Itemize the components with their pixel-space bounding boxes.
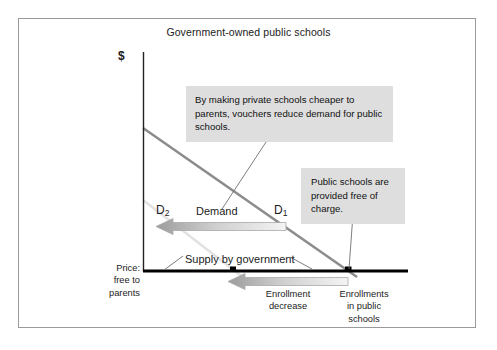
curve-label-d1-text: D <box>274 203 283 217</box>
demand-label: Demand <box>196 205 238 218</box>
enrollment-decrease-label: Enrollment decrease <box>252 288 324 313</box>
leader-line-supply-left <box>164 256 183 270</box>
callout-free-charge: Public schools are provided free of char… <box>301 168 405 224</box>
curve-label-d1-subscript: 1 <box>283 208 288 218</box>
diagram-canvas <box>0 0 497 350</box>
curve-label-d1: D1 <box>274 203 287 218</box>
price-axis-label: Price: free to parents <box>78 262 140 299</box>
equilibrium-dot-d2 <box>230 267 236 272</box>
curve-label-d2-text: D <box>156 203 165 217</box>
x-axis-caption: Enrollments in public schools <box>325 288 403 325</box>
y-axis-label: $ <box>118 49 125 63</box>
supply-label: Supply by government <box>185 253 294 266</box>
curve-label-d2-subscript: 2 <box>165 208 170 218</box>
demand-shift-arrow <box>156 219 286 235</box>
equilibrium-dot-d1 <box>345 267 352 272</box>
callout-demand-shift: By making private schools cheaper to par… <box>186 86 393 142</box>
page-title: Government-owned public schools <box>0 26 497 38</box>
curve-label-d2: D2 <box>156 203 169 218</box>
figure-container: Government-owned public schools $ By mak… <box>0 0 497 350</box>
